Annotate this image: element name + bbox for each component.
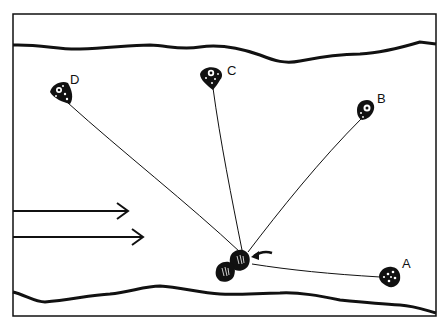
cell-b-icon [357,100,374,120]
target-cells-icon [216,250,250,282]
flow-arrow-1 [13,203,128,219]
cell-a-icon [379,267,400,287]
thread-d [68,103,240,252]
diagram-canvas: D C B A [0,0,443,336]
label-b: B [377,91,386,106]
label-c: C [227,63,236,78]
thread-c [213,88,242,250]
label-a: A [402,256,411,271]
thread-b [248,118,362,252]
bottom-channel-wall [13,286,436,313]
cell-d-icon [50,82,72,104]
threads [68,88,380,277]
cell-c-icon [200,67,222,90]
top-channel-wall [13,42,436,62]
flow-arrow-2 [13,229,143,245]
convergence-arrow-icon [251,251,272,260]
label-d: D [70,72,79,87]
thread-a [252,264,380,277]
